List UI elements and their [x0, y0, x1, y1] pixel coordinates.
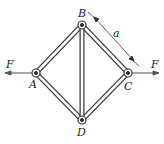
- node-label-b: B: [77, 7, 86, 20]
- force-label-right: F: [150, 58, 159, 71]
- member-ab: [36, 25, 82, 73]
- truss-diagram: B A C D F F a: [0, 0, 164, 144]
- joint-c: [124, 69, 132, 77]
- member-cd: [82, 73, 128, 120]
- member-da: [36, 73, 82, 120]
- node-label-d: D: [76, 126, 86, 139]
- joint-a: [32, 69, 40, 77]
- joint-d: [78, 116, 86, 124]
- node-label-c: C: [124, 80, 133, 93]
- joint-b: [78, 21, 86, 29]
- force-arrow-right: [132, 71, 159, 75]
- node-label-a: A: [28, 78, 37, 91]
- member-bc: [82, 25, 128, 73]
- force-arrow-left: [5, 71, 32, 75]
- dimension-label-a: a: [113, 27, 120, 40]
- force-label-left: F: [5, 58, 14, 71]
